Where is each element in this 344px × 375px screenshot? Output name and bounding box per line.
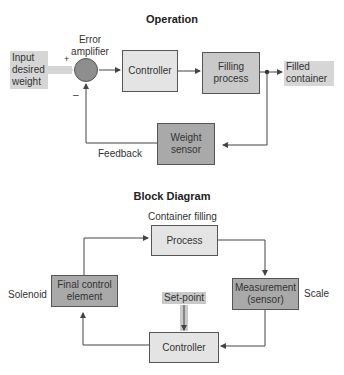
block-diagram-title: Block Diagram	[0, 190, 344, 202]
solenoid-caption: Solenoid	[8, 289, 47, 301]
filling-process-block: Filling process	[202, 52, 260, 94]
controller-block-2: Controller	[149, 332, 219, 363]
controller-block: Controller	[122, 50, 178, 92]
weight-sensor-block: Weight sensor	[157, 123, 215, 165]
error-amplifier-label: Error amplifier	[66, 34, 114, 58]
feedback-label: Feedback	[98, 148, 142, 160]
filled-container-output: Filled container	[284, 61, 334, 86]
set-point-label: Set-point	[162, 292, 206, 304]
measurement-block: Measurement (sensor)	[232, 278, 299, 310]
process-caption: Container filling	[148, 211, 217, 223]
controller-label: Controller	[128, 65, 171, 77]
error-amplifier-node	[74, 58, 98, 82]
input-arrow-band	[48, 66, 72, 74]
process-block: Process	[151, 225, 218, 256]
minus-sign: –	[73, 89, 79, 101]
plus-sign: +	[64, 53, 69, 65]
final-control-element-block: Final control element	[51, 275, 118, 307]
input-label: Input desired weight	[12, 52, 45, 88]
scale-caption: Scale	[304, 288, 329, 300]
